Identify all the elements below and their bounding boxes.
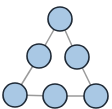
node-mid-left: [27, 44, 51, 68]
node-bottom-left: [3, 83, 27, 107]
nodes-group: [3, 7, 108, 108]
node-mid-right: [65, 45, 89, 69]
node-bottom-middle: [43, 84, 67, 108]
triangle-node-diagram: [0, 0, 112, 109]
node-top: [48, 7, 72, 31]
node-bottom-right: [84, 84, 108, 108]
